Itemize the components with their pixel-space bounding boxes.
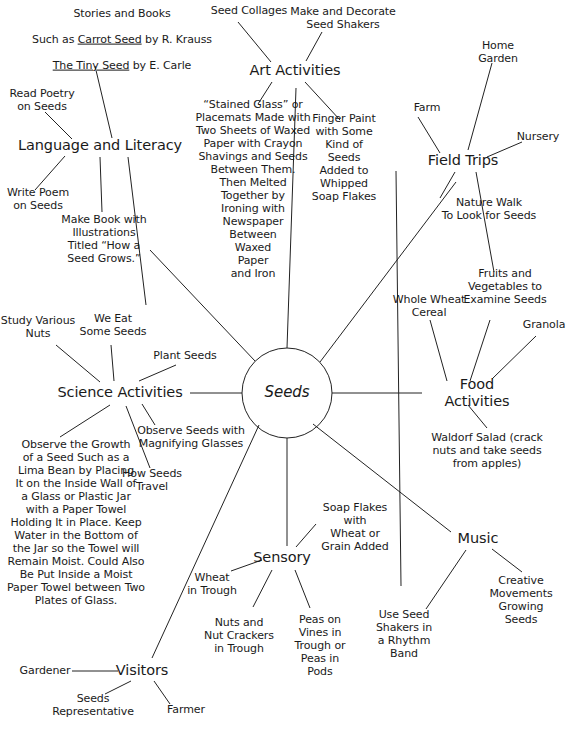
mind-map-canvas: Seeds Language and Literacy Art Activiti… [0,0,573,730]
edge-art-collages [238,22,271,62]
leaf-gardener: Gardener [13,665,77,678]
leaf-nuts-and-nut-crackers: Nuts and Nut Crackers in Trough [194,617,284,656]
edge-music-shakers [426,550,466,609]
edge-visitors-farmer [154,681,170,704]
stories-title-carrot-seed: Carrot Seed [78,33,142,46]
edge-music-creative [492,549,522,572]
leaf-use-seed-shakers-rhythm-band: Use Seed Shakers in a Rhythm Band [364,609,444,661]
edge-science-plantseeds [139,365,176,381]
leaf-write-poem-on-seeds: Write Poem on Seeds [0,187,83,213]
leaf-waldorf-salad: Waldorf Salad (crack nuts and take seeds… [425,432,550,471]
leaf-nursery: Nursery [508,131,568,144]
edge-food-granola [492,336,536,379]
edge-field-naturewalk [440,172,455,198]
leaf-we-eat-some-seeds: We Eat Some Seeds [73,313,153,339]
leaf-make-book-illustrations: Make Book with Illustrations Titled “How… [44,214,164,266]
branch-music: Music [458,530,499,547]
leaf-make-decorate-seed-shakers: Make and Decorate Seed Shakers [283,6,403,32]
branch-visitors: Visitors [116,662,169,679]
center-node-seeds: Seeds [265,384,310,402]
edge-field-farm [418,117,440,153]
edge-science-magnifying [142,404,155,425]
leaf-study-various-nuts: Study Various Nuts [0,315,83,341]
leaf-read-poetry-on-seeds: Read Poetry on Seeds [0,88,87,114]
leaf-plant-seeds: Plant Seeds [145,350,225,363]
edge-language-makebook [100,157,102,212]
edge-food-wholewheat [430,320,447,381]
branch-sensory: Sensory [253,549,311,566]
leaf-nature-walk: Nature Walk To Look for Seeds [434,197,544,223]
leaf-observe-growth-lima-bean: Observe the Growth of a Seed Such as a L… [0,439,156,608]
leaf-soap-flakes-wheat-grain: Soap Flakes with Wheat or Grain Added [310,502,400,554]
stories-line-2: Such as Carrot Seed by R. Krauss [7,34,237,47]
edge-science-studynuts [56,345,100,382]
leaf-granola: Granola [514,319,573,332]
leaf-how-seeds-travel: How Seeds Travel [112,468,192,494]
stories-author-carle: by E. Carle [129,58,191,71]
branch-food-activities: Food Activities [429,376,525,410]
edge-art-shakers [306,32,322,61]
leaf-seeds-representative: Seeds Representative [43,693,143,719]
leaf-whole-wheat-cereal: Whole Wheat Cereal [387,294,472,320]
leaf-peas-on-vines: Peas on Vines in Trough or Peas in Pods [285,614,355,679]
edge-sensory-nuts [295,570,310,608]
leaf-creative-movements-growing-seeds: Creative Movements Growing Seeds [481,575,561,627]
branch-language-and-literacy: Language and Literacy [18,137,182,154]
branch-art-activities: Art Activities [250,62,341,79]
leaf-farmer: Farmer [156,704,216,717]
edge-food-fruitsveg [470,320,490,381]
leaf-wheat-in-trough: Wheat in Trough [177,572,247,598]
edge-science-weeat [111,345,114,381]
edge-language-writepoem [35,156,65,190]
edge-science-observegrowth [60,405,110,437]
stories-such-as: Such as [32,33,78,46]
leaf-observe-seeds-magnifying: Observe Seeds with Magnifying Glasses [126,425,256,451]
stories-title-tiny-seed: The Tiny Seed [53,58,130,71]
leaf-finger-paint-soap-flakes: Finger Paint with Some Kind of Seeds Add… [299,113,389,204]
edge-sensory-peas [253,570,272,607]
stories-line-3: The Tiny Seed by E. Carle [7,59,237,72]
edge-field-homegarden [468,63,492,150]
stories-author-krauss: by R. Krauss [142,33,212,46]
edge-language-readpoetry [45,112,72,139]
leaf-home-garden: Home Garden [463,40,533,66]
branch-science-activities: Science Activities [57,384,182,401]
leaf-farm: Farm [402,102,452,115]
branch-field-trips: Field Trips [428,152,498,169]
